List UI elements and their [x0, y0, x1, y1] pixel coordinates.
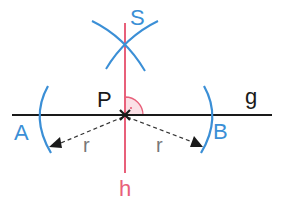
label-p: P [97, 87, 112, 112]
arc-a [40, 86, 51, 153]
arrowhead-right [190, 136, 203, 147]
label-s: S [130, 5, 145, 30]
label-r-right: r [156, 134, 163, 156]
arrowhead-left [49, 137, 62, 148]
right-angle-dot [130, 107, 132, 109]
diagram-svg: S P g A B h r r [0, 0, 281, 203]
label-h: h [119, 176, 131, 201]
construction-diagram: S P g A B h r r [0, 0, 281, 203]
arc-b [201, 86, 212, 153]
label-r-left: r [83, 134, 90, 156]
label-b: B [213, 119, 228, 144]
label-g: g [245, 84, 257, 109]
label-a: A [14, 120, 29, 145]
